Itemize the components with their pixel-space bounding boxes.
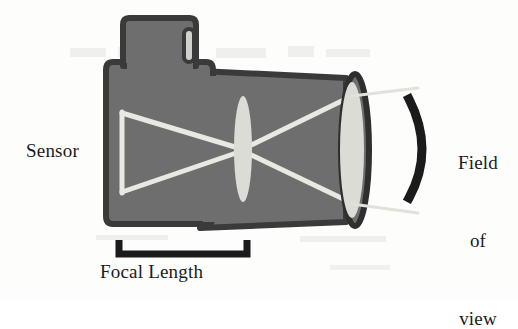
focal-length-bracket [119, 240, 247, 254]
front-lens-element [340, 82, 364, 218]
field-of-view-label-line3: view [447, 306, 509, 329]
sensor-label: Sensor [26, 140, 79, 162]
lens-barrel [200, 71, 346, 228]
field-of-view-bracket [409, 99, 422, 198]
field-of-view-label: Field of view [447, 98, 509, 329]
field-of-view-label-line1: Field [447, 150, 509, 176]
inner-lens-element [234, 96, 252, 202]
focal-length-label: Focal Length [100, 261, 203, 283]
shutter-button-slot [184, 29, 194, 62]
field-of-view-label-line2: of [447, 228, 509, 254]
body-barrel-seam [203, 76, 219, 222]
